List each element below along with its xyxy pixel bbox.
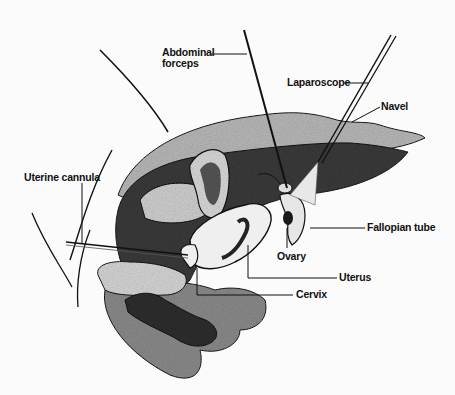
leader-navel: [352, 107, 380, 122]
label-abdominal-forceps: Abdominal forceps: [162, 47, 214, 69]
label-ovary: Ovary: [277, 251, 306, 262]
laparoscopy-diagram: Abdominal forceps Laparoscope Navel Uter…: [0, 0, 455, 395]
forceps-tip: [278, 183, 292, 193]
label-uterus: Uterus: [339, 272, 371, 283]
body-outline-arc: [100, 50, 168, 132]
label-cervix: Cervix: [296, 289, 327, 300]
label-fallopian-tube: Fallopian tube: [367, 222, 435, 233]
label-laparoscope: Laparoscope: [287, 77, 350, 88]
label-navel: Navel: [381, 101, 408, 112]
label-uterine-cannula: Uterine cannula: [24, 172, 100, 183]
leg-outline-2: [78, 230, 91, 307]
ovary-shape: [283, 211, 293, 225]
label-abdominal-forceps-line2: forceps: [162, 58, 214, 69]
diagram-artwork: [0, 0, 455, 395]
leg-outline-1: [32, 213, 72, 287]
